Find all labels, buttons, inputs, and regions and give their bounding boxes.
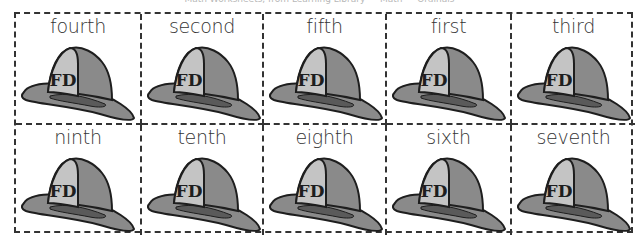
ordinal-card[interactable]: fourth FD <box>16 14 142 125</box>
ordinal-card[interactable]: first FD <box>387 14 512 125</box>
page-header-text: Math Worksheets, from Learning Library —… <box>0 0 639 4</box>
svg-text:FD: FD <box>298 70 325 90</box>
fire-helmet-icon: FD <box>391 40 509 122</box>
svg-text:FD: FD <box>176 70 203 90</box>
fire-helmet-icon: FD <box>146 151 264 233</box>
fire-helmet-icon: FD <box>516 40 634 122</box>
ordinal-label: third <box>512 15 635 37</box>
ordinal-label: eighth <box>264 126 385 148</box>
svg-text:FD: FD <box>421 181 448 201</box>
ordinal-label: sixth <box>387 126 510 148</box>
fire-helmet-icon: FD <box>391 151 509 233</box>
ordinal-label: second <box>142 15 262 37</box>
ordinal-card[interactable]: tenth FD <box>142 125 264 235</box>
ordinal-card[interactable]: fifth FD <box>264 14 387 125</box>
svg-text:FD: FD <box>421 70 448 90</box>
svg-text:FD: FD <box>546 181 573 201</box>
ordinal-label: first <box>387 15 510 37</box>
ordinal-cards-grid: fourth FD second FD fifth <box>14 12 633 233</box>
ordinal-card[interactable]: sixth FD <box>387 125 512 235</box>
ordinal-card[interactable]: eighth FD <box>264 125 387 235</box>
ordinal-label: seventh <box>512 126 635 148</box>
svg-text:FD: FD <box>50 181 77 201</box>
fire-helmet-icon: FD <box>268 40 386 122</box>
fire-helmet-icon: FD <box>20 40 138 122</box>
ordinal-label: fourth <box>16 15 140 37</box>
svg-text:FD: FD <box>546 70 573 90</box>
ordinal-card[interactable]: third FD <box>512 14 635 125</box>
ordinal-label: tenth <box>142 126 262 148</box>
svg-text:FD: FD <box>298 181 325 201</box>
ordinal-card[interactable]: ninth FD <box>16 125 142 235</box>
fire-helmet-icon: FD <box>146 40 264 122</box>
ordinal-label: fifth <box>264 15 385 37</box>
svg-text:FD: FD <box>50 70 77 90</box>
ordinal-card[interactable]: second FD <box>142 14 264 125</box>
ordinal-label: ninth <box>16 126 140 148</box>
fire-helmet-icon: FD <box>20 151 138 233</box>
svg-text:FD: FD <box>176 181 203 201</box>
fire-helmet-icon: FD <box>516 151 634 233</box>
ordinal-card[interactable]: seventh FD <box>512 125 635 235</box>
fire-helmet-icon: FD <box>268 151 386 233</box>
